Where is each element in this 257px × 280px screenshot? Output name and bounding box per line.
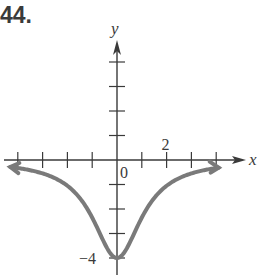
labels: yx20−4 [79,19,257,267]
y-tick-label: −4 [79,250,96,267]
y-axis-label: y [109,19,119,38]
x-axis-label: x [248,150,257,169]
x-tick-label: 2 [162,136,170,153]
function-curve [10,167,218,258]
curve-layer [10,162,218,258]
origin-label: 0 [120,164,128,181]
axes [4,40,246,275]
chart: yx20−4 [0,0,257,280]
